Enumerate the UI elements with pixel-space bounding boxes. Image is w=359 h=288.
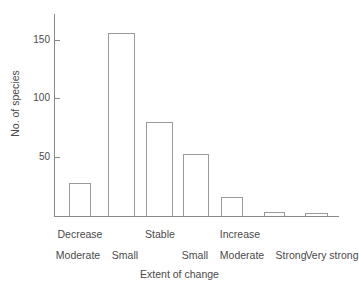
bar-decrease-moderate bbox=[69, 183, 91, 216]
x-axis-line bbox=[54, 216, 339, 217]
sub-label-decrease-small: Small bbox=[107, 249, 143, 261]
bar-stable bbox=[146, 122, 173, 216]
sub-label-decrease-moderate: Moderate bbox=[49, 249, 107, 261]
bar-increase-very-strong bbox=[305, 213, 328, 216]
bar-increase-moderate bbox=[221, 197, 243, 216]
group-label-decrease: Decrease bbox=[40, 228, 120, 240]
sub-label-increase-small: Small bbox=[177, 249, 213, 261]
y-tick-50 bbox=[55, 157, 60, 158]
sub-label-increase-very-strong: Very strong bbox=[299, 249, 359, 261]
y-tick-label-150: 150 bbox=[24, 35, 50, 45]
bar-increase-small bbox=[183, 154, 209, 216]
sub-label-increase-moderate: Moderate bbox=[213, 249, 271, 261]
y-axis-title: No. of species bbox=[10, 59, 21, 149]
group-label-increase: Increase bbox=[205, 228, 275, 240]
y-tick-label-50-wrap: 50 bbox=[20, 152, 50, 162]
bar-chart-figure: 150 100 50 No. of species Decrease Stabl… bbox=[0, 0, 359, 288]
bar-decrease-small bbox=[108, 33, 135, 216]
bar-increase-strong bbox=[264, 212, 285, 216]
y-tick-label-50: 50 bbox=[24, 152, 50, 162]
y-tick-150 bbox=[55, 40, 60, 41]
plot-area: 150 100 50 No. of species Decrease Stabl… bbox=[0, 0, 359, 288]
y-tick-label-100-wrap: 100 bbox=[20, 93, 50, 103]
group-label-stable: Stable bbox=[130, 228, 190, 240]
y-axis-line bbox=[54, 14, 55, 217]
y-tick-label-150-wrap: 150 bbox=[20, 35, 50, 45]
x-axis-title: Extent of change bbox=[0, 268, 359, 280]
y-tick-100 bbox=[55, 98, 60, 99]
y-tick-label-100: 100 bbox=[24, 93, 50, 103]
